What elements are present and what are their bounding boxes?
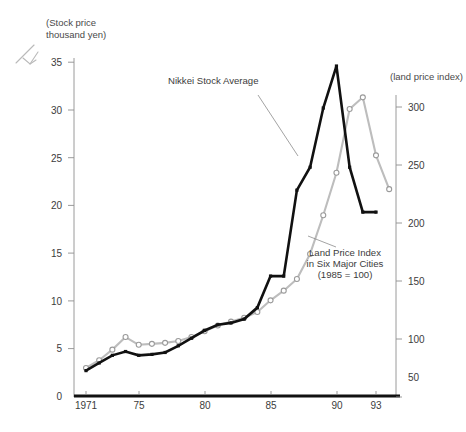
land-price-data-point xyxy=(347,106,352,111)
left-tick-label-5: 5 xyxy=(56,343,62,354)
x-tick-label-90: 90 xyxy=(331,400,343,411)
land-price-data-point xyxy=(360,95,365,100)
x-tick-label-1971: 1971 xyxy=(75,400,98,411)
nikkei-data-point xyxy=(282,274,285,277)
nikkei-data-point xyxy=(150,353,153,356)
nikkei-data-point xyxy=(190,337,193,340)
left-tick-label-35: 35 xyxy=(51,57,63,68)
land-price-data-point xyxy=(321,213,326,218)
x-tick-label-85: 85 xyxy=(265,400,277,411)
x-tick-label-93: 93 xyxy=(370,400,382,411)
x-tick-label-80: 80 xyxy=(199,400,211,411)
land-price-data-point xyxy=(110,347,115,352)
left-tick-label-25: 25 xyxy=(51,153,63,164)
series-layer xyxy=(84,64,392,372)
land-series-label-line2: in Six Major Cities xyxy=(307,258,384,269)
x-tick-label-75: 75 xyxy=(133,400,145,411)
left-tick-label-0: 0 xyxy=(56,391,62,402)
nikkei-data-point xyxy=(269,274,272,277)
nikkei-data-point xyxy=(308,166,311,169)
right-tick-label-250: 250 xyxy=(408,160,425,171)
nikkei-data-point xyxy=(243,317,246,320)
nikkei-data-point xyxy=(203,329,206,332)
land-price-data-point xyxy=(281,288,286,293)
land-series-label-line3: (1985 = 100) xyxy=(318,269,373,280)
left-tick-label-10: 10 xyxy=(51,296,63,307)
right-tick-label-100: 100 xyxy=(408,334,425,345)
land-price-data-point xyxy=(294,277,299,282)
x-axis-ticks: 1971 75 80 85 90 93 xyxy=(75,391,382,411)
land-price-line-path xyxy=(86,97,389,368)
right-tick-label-300: 300 xyxy=(408,102,425,113)
nikkei-data-point xyxy=(374,211,377,214)
nikkei-line-path xyxy=(86,66,376,371)
right-tick-label-200: 200 xyxy=(408,218,425,229)
nikkei-series-label: Nikkei Stock Average xyxy=(168,75,258,86)
right-axis-title: (land price index) xyxy=(390,71,463,82)
land-price-data-point xyxy=(387,187,392,192)
nikkei-data-point xyxy=(216,323,219,326)
land-price-data-point xyxy=(123,335,128,340)
land-price-data-point xyxy=(149,341,154,346)
left-tick-label-30: 30 xyxy=(51,105,63,116)
nikkei-data-point xyxy=(84,369,87,372)
land-price-data-point xyxy=(163,340,168,345)
nikkei-data-point xyxy=(124,350,127,353)
left-tick-label-20: 20 xyxy=(51,200,63,211)
nikkei-data-point xyxy=(295,189,298,192)
land-price-data-point xyxy=(268,298,273,303)
nikkei-data-point xyxy=(335,64,338,67)
chart-svg: (Stock price thousand yen) (land price i… xyxy=(0,0,466,432)
left-axis-title-line2: thousand yen) xyxy=(46,29,106,40)
nikkei-data-point xyxy=(163,351,166,354)
left-axis-ticks: 35 30 25 20 15 10 5 0 xyxy=(51,57,74,402)
nikkei-data-point xyxy=(361,211,364,214)
right-tick-label-150: 150 xyxy=(408,276,425,287)
land-price-data-point xyxy=(176,338,181,343)
left-tick-label-15: 15 xyxy=(51,248,63,259)
land-price-data-point xyxy=(334,170,339,175)
handwritten-check-mark-icon xyxy=(16,45,38,64)
nikkei-data-point xyxy=(348,166,351,169)
nikkei-data-point xyxy=(177,344,180,347)
right-axis-ticks: 300 250 200 150 100 50 xyxy=(396,102,425,397)
nikkei-data-point xyxy=(229,321,232,324)
land-price-data-point xyxy=(136,342,141,347)
nikkei-leader-line xyxy=(258,95,298,156)
nikkei-data-point xyxy=(322,106,325,109)
left-axis-title-line1: (Stock price xyxy=(46,17,96,28)
nikkei-data-point xyxy=(98,361,101,364)
right-tick-label-50: 50 xyxy=(408,372,420,383)
land-series-label-line1: Land Price Index xyxy=(309,247,381,258)
nikkei-data-point xyxy=(256,306,259,309)
nikkei-data-point xyxy=(137,354,140,357)
land-price-data-point xyxy=(374,153,379,158)
chart-figure: (Stock price thousand yen) (land price i… xyxy=(0,0,466,432)
nikkei-data-point xyxy=(111,354,114,357)
